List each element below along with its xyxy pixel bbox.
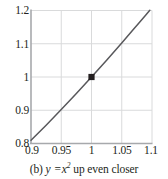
caption-label: (b) — [30, 163, 43, 175]
figure-caption: (b) y =x2 up even closer — [0, 159, 168, 176]
x-axis-tick-labels: 0.9 0.95 1 1.05 1.1 — [0, 0, 168, 179]
x-tick-0.95: 0.95 — [52, 145, 71, 156]
x-tick-1.1: 1.1 — [144, 145, 158, 156]
caption-tail: up even closer — [73, 163, 138, 175]
figure-panel: 1.2 1.1 1 0.9 0.8 0.9 0.95 1 1.05 1.1 (b… — [0, 0, 168, 179]
x-tick-0.9: 0.9 — [25, 145, 39, 156]
x-tick-1: 1 — [89, 145, 95, 156]
caption-exponent: 2 — [67, 161, 71, 170]
x-tick-1.05: 1.05 — [112, 145, 131, 156]
caption-var-y: y — [46, 163, 51, 175]
caption-equals: = — [54, 163, 60, 175]
